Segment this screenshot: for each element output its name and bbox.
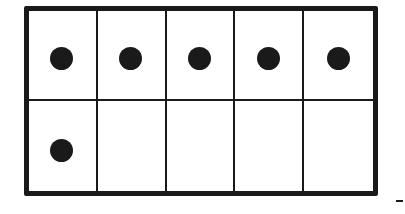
counter-dot-icon: [119, 47, 142, 70]
frame-cell: [29, 11, 98, 101]
counter-dot-icon: [50, 139, 73, 162]
counter-dot-icon: [50, 47, 73, 70]
frame-cell: [167, 101, 236, 191]
frame-cell: [304, 11, 373, 101]
ten-frame: [24, 6, 378, 196]
answer-blank-line: [396, 200, 403, 202]
frame-cell: [98, 11, 167, 101]
frame-cell: [235, 101, 304, 191]
frame-cell: [98, 101, 167, 191]
frame-cell: [167, 11, 236, 101]
counter-dot-icon: [188, 47, 211, 70]
frame-cell: [304, 101, 373, 191]
frame-cell: [29, 101, 98, 191]
counter-dot-icon: [327, 47, 350, 70]
counter-dot-icon: [257, 47, 280, 70]
frame-cell: [235, 11, 304, 101]
